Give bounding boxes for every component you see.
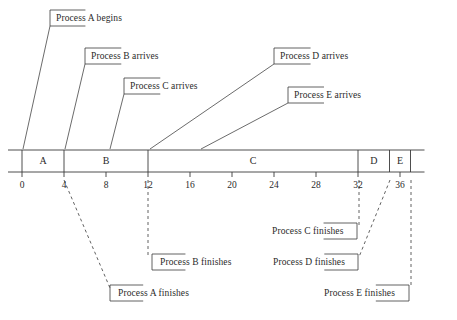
- segment-label-b: B: [103, 155, 110, 166]
- axis-tick-label: 8: [104, 180, 109, 190]
- finish-annotation-label: Process A finishes: [118, 288, 189, 299]
- diagram-canvas: 04812162024283236 ABCDE Process A begins…: [0, 0, 457, 320]
- annotation-leader-line: [23, 26, 50, 149]
- arrival-annotation-label: Process A begins: [56, 13, 122, 24]
- annotation-leader-line: [110, 94, 124, 149]
- segment-label-d: D: [370, 155, 377, 166]
- timeline-svg: [0, 0, 457, 320]
- axis-tick-label: 20: [227, 180, 237, 190]
- arrival-annotation-label: Process B arrives: [91, 51, 159, 62]
- annotation-leader-line: [65, 64, 85, 149]
- axis-tick-label: 4: [62, 180, 67, 190]
- arrival-annotation-label: Process C arrives: [130, 81, 198, 92]
- axis-ticks-group: [22, 172, 400, 177]
- finish-annotation-label: Process B finishes: [160, 257, 231, 268]
- axis-tick-label: 28: [311, 180, 321, 190]
- axis-tick-label: 32: [353, 180, 363, 190]
- d-finish-drop: [359, 180, 390, 257]
- axis-tick-label: 0: [20, 180, 25, 190]
- finish-annotation-label: Process D finishes: [273, 257, 345, 268]
- annotation-leader-line: [150, 64, 274, 149]
- segment-label-c: C: [250, 155, 257, 166]
- finish-annotation-label: Process C finishes: [272, 226, 343, 237]
- axis-tick-label: 16: [185, 180, 195, 190]
- a-finish-drop: [64, 180, 110, 288]
- droplines-group: [64, 180, 411, 288]
- arrival-annotation-label: Process E arrives: [294, 90, 361, 101]
- segment-label-e: E: [397, 155, 403, 166]
- timeline-bar-group: [8, 150, 425, 172]
- finish-annotation-label: Process E finishes: [324, 288, 395, 299]
- arrival-annotation-label: Process D arrives: [280, 51, 348, 62]
- axis-tick-label: 12: [143, 180, 153, 190]
- segment-label-a: A: [39, 155, 46, 166]
- annotation-leader-line: [201, 103, 288, 149]
- axis-tick-label: 36: [395, 180, 405, 190]
- axis-tick-label: 24: [269, 180, 279, 190]
